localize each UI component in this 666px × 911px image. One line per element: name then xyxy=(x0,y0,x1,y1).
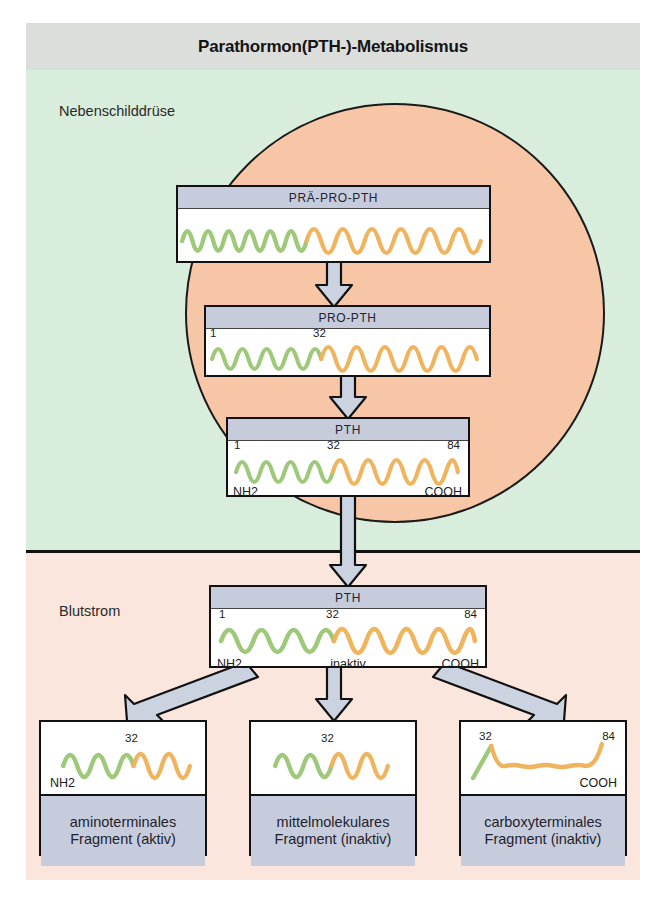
residue-tick-32: 32 xyxy=(125,732,138,744)
residue-tick-1: 1 xyxy=(210,327,216,339)
terminal-label-nh2: NH2 xyxy=(217,657,242,671)
caption-line-1: aminoterminales xyxy=(70,814,176,831)
fragment-box-midmolecule: 32 mittelmolekulares Fragment (inaktiv) xyxy=(249,720,417,856)
caption-line-2: Fragment (inaktiv) xyxy=(485,831,602,848)
residue-tick-32: 32 xyxy=(326,608,339,620)
peptide-wave-aminoterminal: 32 NH2 xyxy=(41,722,205,794)
box-label-pro-pth: PRO-PTH xyxy=(206,307,489,329)
fragment-caption-carboxyterminal: carboxyterminales Fragment (inaktiv) xyxy=(461,794,625,866)
activity-note-inaktiv: inaktiv xyxy=(330,657,365,671)
arrow-to-carboxyterminal-fragment xyxy=(430,663,590,725)
peptide-wave-midmolecule: 32 xyxy=(251,722,415,794)
terminal-label-cooh: COOH xyxy=(580,776,618,790)
caption-line-2: Fragment (inaktiv) xyxy=(275,831,392,848)
peptide-wave-pth-blood: 1 32 84 NH2 inaktiv COOH xyxy=(211,609,485,666)
residue-tick-84: 84 xyxy=(602,730,615,742)
fragment-caption-aminoterminal: aminoterminales Fragment (aktiv) xyxy=(41,794,205,866)
terminal-label-nh2: NH2 xyxy=(233,485,258,499)
fragment-box-aminoterminal: 32 NH2 aminoterminales Fragment (aktiv) xyxy=(39,720,207,856)
arrow-pth-to-bloodstream xyxy=(328,495,368,589)
arrow-to-midmolecule-fragment xyxy=(314,665,354,723)
residue-tick-84: 84 xyxy=(464,608,477,620)
fragment-caption-midmolecule: mittelmolekulares Fragment (inaktiv) xyxy=(251,794,415,866)
page-title: Parathormon(PTH-)-Metabolismus xyxy=(26,23,640,70)
box-label-pth-blood: PTH xyxy=(211,587,485,609)
region-label-blood: Blutstrom xyxy=(59,603,120,619)
molecule-box-pro-pth: PRO-PTH 1 32 xyxy=(204,305,491,377)
molecule-box-pre-pro-pth: PRÄ-PRO-PTH xyxy=(176,185,491,263)
terminal-label-cooh: COOH xyxy=(425,485,463,499)
figure-canvas: Parathormon(PTH-)-Metabolismus Nebenschi… xyxy=(26,23,640,880)
residue-tick-1: 1 xyxy=(219,608,225,620)
arrow-pro-to-pth xyxy=(328,375,368,421)
fragment-box-carboxyterminal: 32 84 COOH carboxyterminales Fragment (i… xyxy=(459,720,627,856)
arrow-to-aminoterminal-fragment xyxy=(101,663,261,725)
caption-line-1: carboxyterminales xyxy=(484,814,602,831)
arrow-prepro-to-pro xyxy=(314,261,354,309)
peptide-wave-pro-pth: 1 32 xyxy=(206,329,489,375)
box-label-pre-pro-pth: PRÄ-PRO-PTH xyxy=(178,187,489,209)
residue-tick-32: 32 xyxy=(327,439,340,451)
residue-tick-32: 32 xyxy=(313,327,326,339)
peptide-wave-pth-gland: 1 32 84 NH2 COOH xyxy=(228,441,468,495)
terminal-label-nh2: NH2 xyxy=(50,776,75,790)
molecule-box-pth-gland: PTH 1 32 84 NH2 COOH xyxy=(226,417,470,497)
terminal-label-cooh: COOH xyxy=(442,657,480,671)
residue-tick-32: 32 xyxy=(479,730,492,742)
peptide-wave-carboxyterminal: 32 84 COOH xyxy=(461,722,625,794)
caption-line-1: mittelmolekulares xyxy=(277,814,390,831)
region-label-gland: Nebenschilddrüse xyxy=(59,103,175,119)
peptide-wave-pre-pro-pth xyxy=(178,209,489,261)
residue-tick-32: 32 xyxy=(321,732,334,744)
caption-line-2: Fragment (aktiv) xyxy=(70,831,176,848)
box-label-pth-gland: PTH xyxy=(228,419,468,441)
residue-tick-84: 84 xyxy=(447,439,460,451)
molecule-box-pth-blood: PTH 1 32 84 NH2 inaktiv COOH xyxy=(209,585,487,668)
residue-tick-1: 1 xyxy=(234,439,240,451)
